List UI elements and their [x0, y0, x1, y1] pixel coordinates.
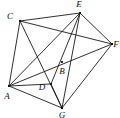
graph-edge-F-G	[62, 44, 112, 108]
vertex-label-F: F	[112, 39, 119, 49]
graph-vertex-D	[50, 83, 52, 85]
vertex-label-B: B	[59, 66, 65, 76]
graph-edge-C-E	[20, 13, 80, 21]
vertex-label-C: C	[7, 11, 14, 21]
vertex-label-G: G	[59, 110, 66, 118]
graph-vertex-C	[19, 20, 21, 22]
graph-vertex-E	[79, 12, 81, 14]
graph-edge-A-F	[9, 44, 112, 86]
graph-vertex-B	[61, 61, 63, 63]
graph-vertex-G	[61, 107, 63, 109]
vertex-label-E: E	[75, 0, 82, 9]
graph-edge-C-F	[20, 21, 112, 44]
vertex-label-A: A	[3, 91, 10, 101]
graph-edge-E-G	[62, 13, 80, 108]
graph-edge-A-G	[9, 86, 62, 108]
vertex-label-D: D	[38, 82, 46, 92]
graph-figure: ABCDEFG	[0, 0, 120, 118]
graph-edge-E-F	[80, 13, 112, 44]
graph-canvas: ABCDEFG	[0, 0, 120, 118]
graph-edge-E-D	[51, 13, 80, 84]
edge-layer	[9, 13, 112, 108]
graph-vertex-A	[8, 85, 10, 87]
